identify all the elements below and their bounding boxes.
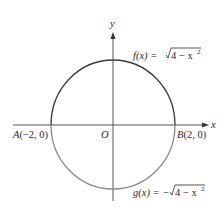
point-a-coords: (−2, 0) bbox=[19, 129, 48, 141]
origin-label: O bbox=[101, 129, 109, 140]
g-equation-label: g(x) = − 4 − x 2 bbox=[133, 185, 205, 199]
f-exponent: 2 bbox=[197, 48, 201, 56]
y-axis-arrow-icon bbox=[111, 32, 116, 39]
f-lhs: f(x) = bbox=[133, 50, 157, 62]
g-exponent: 2 bbox=[201, 185, 205, 193]
point-a-label: A(−2, 0) bbox=[12, 129, 49, 141]
x-axis-arrow-icon bbox=[202, 123, 209, 128]
point-b-coords: (2, 0) bbox=[183, 129, 206, 141]
g-radicand: 4 − x bbox=[175, 187, 197, 198]
point-b-label: B(2, 0) bbox=[177, 129, 207, 141]
f-radicand: 4 − x bbox=[171, 50, 193, 61]
circle-diagram: x y O A(−2, 0) B(2, 0) f(x) = 4 − x 2 g(… bbox=[0, 0, 222, 213]
g-lhs: g(x) = − bbox=[133, 187, 169, 199]
y-axis-label: y bbox=[109, 18, 115, 29]
x-axis-label: x bbox=[210, 119, 216, 130]
f-equation-label: f(x) = 4 − x 2 bbox=[133, 48, 201, 62]
